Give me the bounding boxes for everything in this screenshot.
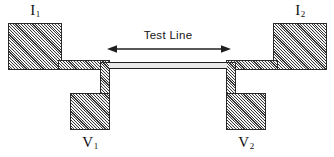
label-voltage-right-symbol: V xyxy=(238,134,249,150)
voltage-stub-right xyxy=(226,62,236,96)
label-current-right: I2 xyxy=(283,3,317,18)
label-voltage-left-subscript: 1 xyxy=(94,141,99,151)
label-current-right-subscript: 2 xyxy=(301,9,306,19)
label-voltage-right: V2 xyxy=(229,135,263,150)
voltage-pad-left xyxy=(70,93,110,130)
current-pad-left xyxy=(8,23,62,70)
test-line-strip xyxy=(109,62,227,69)
label-current-left: I1 xyxy=(18,3,52,18)
label-voltage-right-subscript: 2 xyxy=(250,141,255,151)
label-voltage-left-symbol: V xyxy=(82,134,93,150)
label-current-right-symbol: I xyxy=(295,2,300,18)
label-current-left-subscript: 1 xyxy=(36,9,41,19)
label-voltage-left: V1 xyxy=(73,135,107,150)
test-line-double-arrow xyxy=(104,40,234,58)
current-pad-right xyxy=(273,23,327,70)
voltage-pad-right xyxy=(226,93,266,130)
four-point-probe-diagram: Test Line I1 I2 V1 V2 xyxy=(0,0,334,157)
label-current-left-symbol: I xyxy=(30,2,35,18)
